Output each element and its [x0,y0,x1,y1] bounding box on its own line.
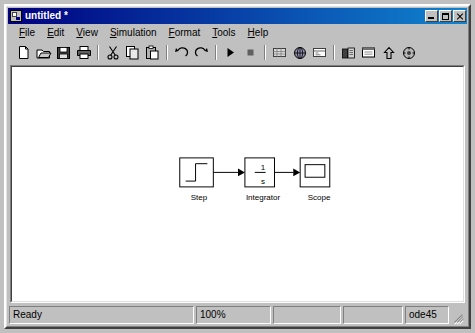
play-triangle-icon [224,46,237,59]
menu-rest-edit: dit [54,27,65,38]
new-document-icon [16,45,31,60]
printer-icon [76,45,92,60]
toolbar-group-tools [339,44,418,62]
maximize-icon [442,13,449,20]
debugger-icon [402,46,416,60]
toggle-model-browser-button[interactable] [310,44,329,62]
window-title: untitled * [25,10,425,22]
status-message: Ready [9,306,194,324]
toolbar-separator-5 [333,45,335,60]
integrator-block-label: Integrator [233,193,293,202]
toolbar-group-edit [103,44,162,62]
block-properties-button[interactable] [359,44,378,62]
model-canvas-frame: 1 s Step Integrator Scope [10,65,465,303]
status-pane-3 [273,306,341,324]
status-pane-4 [343,306,403,324]
menu-rest-simulation: imulation [117,27,157,38]
simulation-parameters-button[interactable] [290,44,309,62]
stop-simulation-button[interactable] [241,44,260,62]
menu-accel-help: H [248,27,255,38]
minimize-icon [428,17,434,19]
block-window-icon [361,46,376,59]
toolbar-group-simulation [221,44,260,62]
library-browser-icon [341,46,356,60]
start-simulation-button[interactable] [221,44,240,62]
menu-item-edit[interactable]: Edit [41,26,70,40]
toolbar-separator-4 [264,45,266,60]
menu-rest-help: elp [255,27,268,38]
toolbar-separator-2 [166,45,168,60]
step-block[interactable] [180,158,214,187]
undo-button[interactable] [172,44,191,62]
title-bar[interactable]: untitled * [8,8,467,24]
menu-item-format[interactable]: Format [163,26,207,40]
print-model-button[interactable] [74,44,93,62]
copy-pages-icon [125,45,140,60]
model-diagram [12,67,463,301]
signal-step-to-integrator[interactable] [213,169,245,177]
model-browser-icon [312,46,327,59]
menu-item-help[interactable]: Help [242,26,275,40]
simulink-model-window: untitled * File Edit View Simulation For… [0,0,475,333]
scope-block[interactable] [300,158,330,187]
resize-grip[interactable] [451,306,466,324]
menu-rest-view: iew [83,27,98,38]
clipboard-paste-icon [145,45,160,60]
paste-button[interactable] [143,44,162,62]
redo-arrow-icon [194,45,209,60]
redo-button[interactable] [192,44,211,62]
menu-rest-tools: ools [217,27,235,38]
status-solver: ode45 [405,306,449,324]
copy-button[interactable] [123,44,142,62]
up-arrow-icon [383,46,395,60]
maximize-button[interactable] [439,10,452,22]
new-model-button[interactable] [14,44,33,62]
cut-button[interactable] [103,44,122,62]
go-to-parent-button[interactable] [379,44,398,62]
window-frame: untitled * File Edit View Simulation For… [4,4,471,329]
toolbar-group-model [270,44,329,62]
status-zoom-level: 100% [196,306,271,324]
close-button[interactable] [453,10,466,22]
diagram-grid-icon [272,46,287,59]
save-model-button[interactable] [54,44,73,62]
library-browser-button[interactable] [339,44,358,62]
globe-clock-icon [293,46,307,60]
menu-bar: File Edit View Simulation Format Tools H… [8,25,467,40]
menu-accel-edit: E [47,27,54,38]
integrator-denominator: s [248,177,278,186]
menu-item-file[interactable]: File [13,26,41,40]
model-canvas[interactable]: 1 s Step Integrator Scope [11,66,464,302]
open-model-button[interactable] [34,44,53,62]
menu-item-tools[interactable]: Tools [206,26,241,40]
update-diagram-button[interactable] [270,44,289,62]
stop-square-icon [244,46,257,59]
toolbar-group-file [14,44,93,62]
step-block-label: Step [182,193,216,202]
window-controls [425,10,466,22]
toolbar-separator-3 [215,45,217,60]
undo-arrow-icon [174,45,189,60]
toolbar [8,41,467,64]
minimize-button[interactable] [425,10,438,22]
toolbar-group-history [172,44,211,62]
simulink-model-icon [10,10,22,22]
menu-item-view[interactable]: View [70,26,104,40]
debug-button[interactable] [399,44,418,62]
scissors-icon [106,45,120,60]
menu-rest-format: ormat [175,27,201,38]
scope-block-label: Scope [304,193,334,202]
toolbar-separator-1 [97,45,99,60]
status-bar: Ready 100% ode45 [9,306,466,324]
open-folder-icon [36,45,52,60]
menu-rest-file: ile [25,27,35,38]
signal-integrator-to-scope[interactable] [275,169,301,177]
floppy-disk-icon [56,45,71,60]
integrator-numerator: 1 [248,163,278,172]
menu-accel-simulation: S [110,27,117,38]
menu-item-simulation[interactable]: Simulation [104,26,163,40]
